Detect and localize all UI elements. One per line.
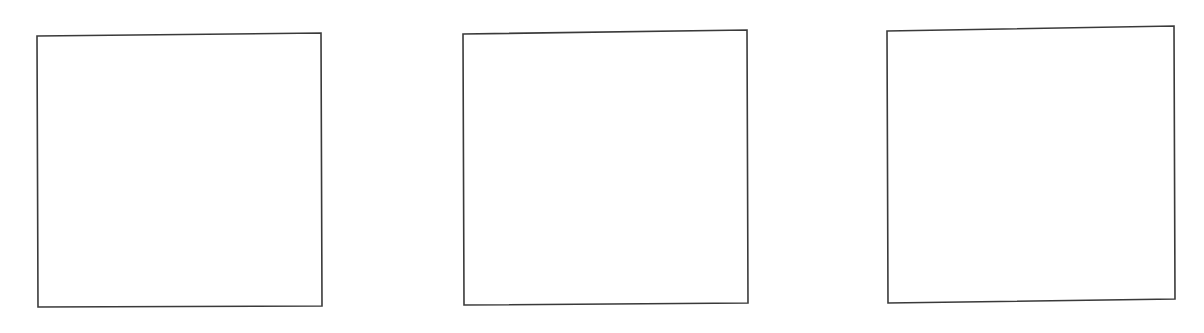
answer-box-3[interactable] [887,26,1175,303]
worksheet-page [0,0,1204,333]
answer-box-1[interactable] [37,33,322,307]
boxes-canvas [0,0,1204,333]
answer-box-2[interactable] [463,30,748,305]
